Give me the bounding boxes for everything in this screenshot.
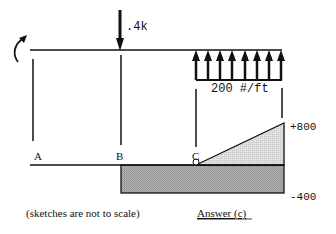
caption: (sketches are not to scale) bbox=[26, 207, 140, 220]
point-load-arrow-icon bbox=[116, 10, 124, 51]
label-b: B bbox=[116, 150, 123, 162]
negative-region bbox=[121, 165, 284, 193]
answer-label: Answer (c) bbox=[197, 207, 247, 220]
beam-diagram: .4k 200 #/ft bbox=[0, 0, 336, 234]
point-load-label: .4k bbox=[126, 20, 148, 34]
label-a: A bbox=[34, 150, 42, 162]
distributed-load-label: 200 #/ft bbox=[211, 82, 269, 96]
distributed-load-arrows-icon bbox=[192, 50, 285, 80]
positive-region bbox=[196, 123, 284, 165]
label-c: C bbox=[192, 150, 199, 162]
value-bottom: -400 bbox=[290, 191, 316, 203]
moment-arrow-icon bbox=[15, 35, 27, 62]
value-top: +800 bbox=[290, 121, 316, 133]
